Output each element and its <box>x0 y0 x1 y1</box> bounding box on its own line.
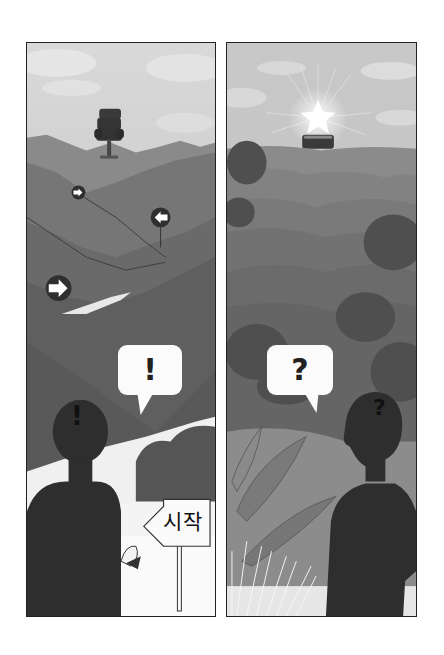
speech-bubble-text: ? <box>291 355 308 385</box>
speech-bubble-question: ? <box>267 345 333 395</box>
arrow-right-large-icon <box>46 275 72 301</box>
speech-bubble-exclamation: ! <box>118 345 182 395</box>
arrow-right-small-icon <box>72 186 86 200</box>
head-exclamation-mark: ! <box>71 403 83 429</box>
speech-bubble-text: ! <box>143 355 157 385</box>
head-question-mark: ? <box>373 397 386 419</box>
right-panel: ? ? <box>226 42 417 617</box>
treasure-chest-icon <box>302 135 334 149</box>
left-panel: ! ! 시작 <box>26 42 216 617</box>
right-scene-illustration <box>227 43 416 616</box>
start-sign-label: 시작 <box>163 505 203 535</box>
